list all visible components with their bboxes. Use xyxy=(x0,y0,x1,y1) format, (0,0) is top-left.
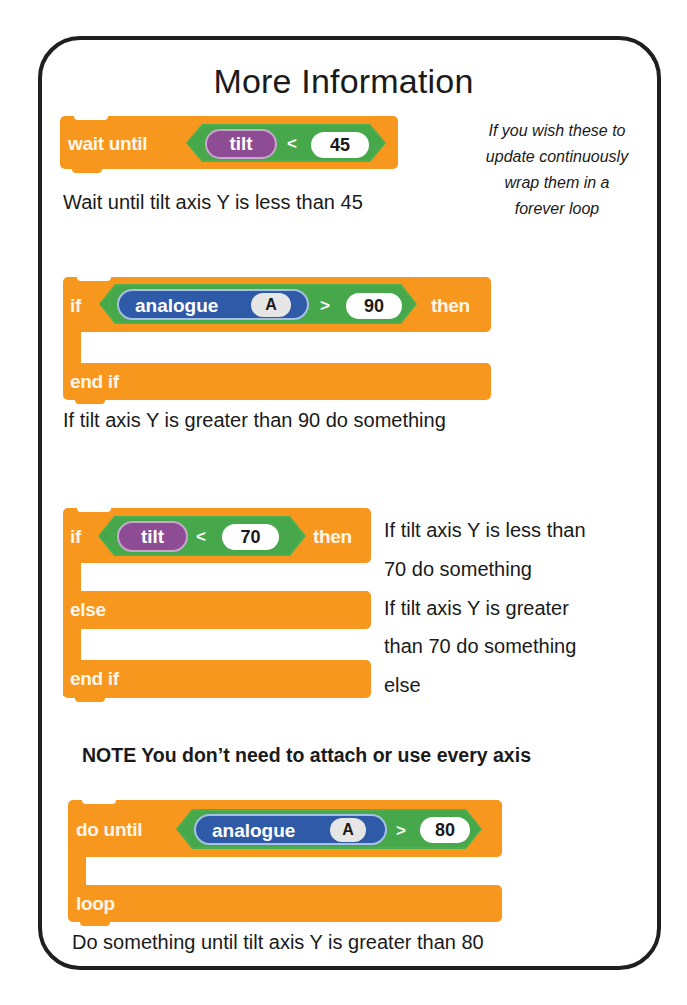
description-line: 70 do something xyxy=(384,558,532,581)
loop-bar xyxy=(68,885,502,922)
tilt-reporter: tilt xyxy=(117,521,188,552)
if-analogue-description: If tilt axis Y is greater than 90 do som… xyxy=(63,409,446,432)
end-if-keyword: end if xyxy=(70,371,119,393)
tilt-reporter: tilt xyxy=(205,129,277,159)
operator-symbol: > xyxy=(320,296,330,316)
end-if-keyword: end if xyxy=(70,668,119,690)
wait-until-keyword: wait until xyxy=(68,133,147,155)
block-tab xyxy=(75,697,105,702)
value-input: 80 xyxy=(420,817,470,843)
description-line: than 70 do something xyxy=(384,635,576,658)
block-notch xyxy=(74,115,108,120)
operator-symbol: < xyxy=(196,527,206,547)
side-note-line: update continuously xyxy=(462,144,652,170)
if-keyword: if xyxy=(70,295,81,317)
then-keyword: then xyxy=(431,295,470,317)
do-until-description: Do something until tilt axis Y is greate… xyxy=(72,931,484,954)
analogue-label: analogue xyxy=(212,820,295,842)
block-notch xyxy=(82,799,116,804)
pin-dropdown: A xyxy=(330,818,366,842)
analogue-label: analogue xyxy=(135,295,218,317)
if-block-footer xyxy=(63,363,491,400)
do-until-keyword: do until xyxy=(76,819,142,841)
else-keyword: else xyxy=(70,599,106,621)
operator-symbol: < xyxy=(287,134,297,154)
block-notch xyxy=(77,507,111,512)
loop-keyword: loop xyxy=(76,893,115,915)
block-notch xyxy=(77,276,111,281)
block-tab xyxy=(80,921,110,926)
side-note-line: wrap them in a xyxy=(462,170,652,196)
side-note-line: If you wish these to xyxy=(462,118,652,144)
description-line: If tilt axis Y is less than xyxy=(384,519,586,542)
side-note: If you wish these to update continuously… xyxy=(462,118,652,222)
page-title: More Information xyxy=(0,62,687,101)
else-bar xyxy=(63,591,371,629)
value-input: 70 xyxy=(222,524,279,550)
if-keyword: if xyxy=(70,526,81,548)
description-line: If tilt axis Y is greater xyxy=(384,597,569,620)
value-input: 90 xyxy=(346,293,402,319)
operator-symbol: > xyxy=(396,821,406,841)
then-keyword: then xyxy=(313,526,352,548)
wait-until-description: Wait until tilt axis Y is less than 45 xyxy=(63,191,363,214)
block-tab xyxy=(75,399,105,404)
description-line: else xyxy=(384,674,421,697)
value-input: 45 xyxy=(311,132,369,158)
side-note-line: forever loop xyxy=(462,196,652,222)
pin-dropdown: A xyxy=(251,293,291,317)
block-tab xyxy=(72,168,102,173)
note-text: NOTE You don’t need to attach or use eve… xyxy=(82,744,531,767)
